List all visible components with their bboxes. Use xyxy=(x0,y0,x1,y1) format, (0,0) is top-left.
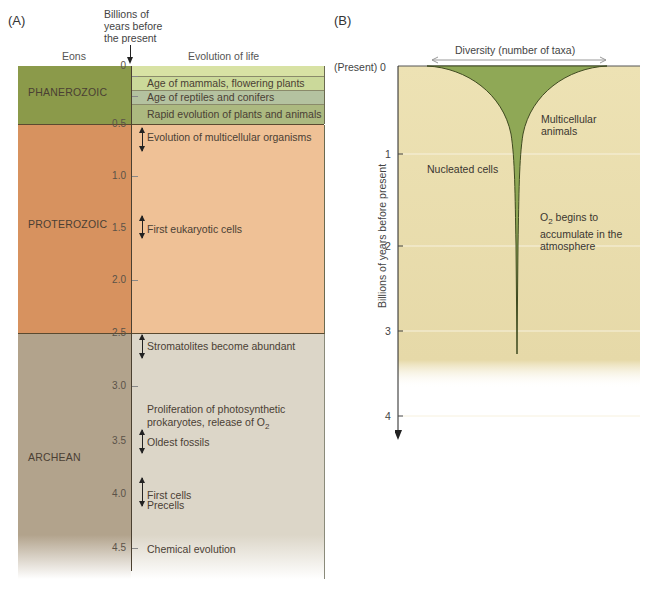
eon-label-proterozoic: PROTEROZOIC xyxy=(28,218,107,230)
double-arrow-icon xyxy=(142,430,143,453)
eon-label-phanerozoic: PHANEROZOIC xyxy=(28,86,107,98)
event-eukaryotic: First eukaryotic cells xyxy=(147,223,242,235)
eon-label-archean: ARCHEAN xyxy=(28,451,81,463)
band-mammals: Age of mammals, flowering plants xyxy=(131,77,324,91)
col-header-evolution: Evolution of life xyxy=(188,50,259,62)
event-precells: Precells xyxy=(147,499,184,511)
panel-b-label: (B) xyxy=(334,13,351,28)
annotation-multicellular: Multicellular animals xyxy=(541,113,596,137)
tick-mark xyxy=(132,548,138,549)
column-divider xyxy=(131,66,132,571)
tick-0-5: 0.5 xyxy=(96,118,126,129)
band-recent xyxy=(131,66,324,77)
tick-2-5: 2.5 xyxy=(96,327,126,338)
y-tick-4: 4 xyxy=(385,410,391,422)
event-photosynthetic: Proliferation of photosynthetic prokaryo… xyxy=(147,403,285,433)
tick-4-5: 4.5 xyxy=(96,542,126,553)
band-rapid-evolution: Rapid evolution of plants and animals xyxy=(131,105,324,125)
tick-mark xyxy=(132,76,138,77)
tick-0: 0 xyxy=(96,60,126,71)
event-chemical-evolution: Chemical evolution xyxy=(147,543,236,555)
tick-2-0: 2.0 xyxy=(96,274,126,285)
tick-3-5: 3.5 xyxy=(96,435,126,446)
tick-mark xyxy=(132,280,138,281)
y-axis-title: Billions of years before present xyxy=(376,156,388,316)
tick-mark xyxy=(132,96,138,97)
phanerozoic-bands: Age of mammals, flowering plants Age of … xyxy=(131,66,325,124)
tick-mark xyxy=(132,386,138,387)
tick-mark xyxy=(132,176,138,177)
double-arrow-icon xyxy=(142,478,143,506)
x-axis-title: Diversity (number of taxa) xyxy=(455,44,575,56)
annotation-nucleated: Nucleated cells xyxy=(427,163,498,175)
event-stromatolites: Stromatolites become abundant xyxy=(147,340,295,352)
double-arrow-icon xyxy=(142,216,143,238)
tick-4-0: 4.0 xyxy=(96,488,126,499)
tick-1-0: 1.0 xyxy=(96,170,126,181)
diversity-plot xyxy=(395,64,645,449)
axis-title: Billions of years before the present xyxy=(104,8,164,44)
double-arrow-icon xyxy=(142,128,143,151)
band-reptiles: Age of reptiles and conifers xyxy=(131,91,324,105)
event-oldest-fossils: Oldest fossils xyxy=(147,436,209,448)
col-header-eons: Eons xyxy=(62,50,86,62)
double-arrow-icon xyxy=(142,335,143,358)
event-multicellular: Evolution of multicellular organisms xyxy=(147,131,312,143)
arrow-head-icon xyxy=(127,57,133,64)
annotation-o2: O2 begins to accumulate in the atmospher… xyxy=(540,211,622,252)
tick-3-0: 3.0 xyxy=(96,380,126,391)
x-axis-double-arrow-icon xyxy=(430,56,608,64)
panel-a-label: (A) xyxy=(8,13,25,28)
present-label: (Present) 0 xyxy=(334,61,386,73)
y-tick-3: 3 xyxy=(385,325,391,337)
